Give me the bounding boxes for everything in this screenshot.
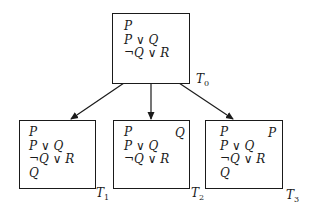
formula: Q <box>29 167 74 181</box>
label-text: T <box>96 186 104 200</box>
formula: ¬Q ∨ R <box>220 153 265 167</box>
formula: P <box>220 126 265 140</box>
label-text: T <box>286 188 294 202</box>
formula: ¬Q ∨ R <box>124 47 169 61</box>
formula: P ∨ Q <box>124 34 169 48</box>
formula: P ∨ Q <box>124 140 169 154</box>
label-subscript: 3 <box>294 195 299 204</box>
formula: P <box>124 126 169 140</box>
edge-t0-t3-arrow-icon <box>179 83 233 119</box>
node-t3-extra-formula: P <box>268 126 276 140</box>
node-t2-formulas: P P ∨ Q ¬Q ∨ R <box>124 126 169 167</box>
node-t3-label: T3 <box>286 188 299 204</box>
formula: P <box>124 20 169 34</box>
formula: ¬Q ∨ R <box>124 153 169 167</box>
formula: P <box>29 126 74 140</box>
node-t1-formulas: P P ∨ Q ¬Q ∨ R Q <box>29 126 74 180</box>
node-t1-label: T1 <box>96 186 109 202</box>
diagram-canvas: P P ∨ Q ¬Q ∨ R T0 P P ∨ Q ¬Q ∨ R Q T1 P … <box>0 0 315 213</box>
node-t3-formulas: P P ∨ Q ¬Q ∨ R Q <box>220 126 265 180</box>
formula: Q <box>220 167 265 181</box>
label-subscript: 0 <box>204 79 209 88</box>
node-t2-extra-formula: Q <box>175 126 185 140</box>
label-subscript: 1 <box>104 193 109 202</box>
label-subscript: 2 <box>199 193 204 202</box>
formula: P ∨ Q <box>220 140 265 154</box>
edge-t0-t1-arrow-icon <box>71 83 124 119</box>
node-t0-label: T0 <box>196 72 209 88</box>
label-text: T <box>191 186 199 200</box>
formula: ¬Q ∨ R <box>29 153 74 167</box>
formula: P ∨ Q <box>29 140 74 154</box>
label-text: T <box>196 72 204 86</box>
node-t2-label: T2 <box>191 186 204 202</box>
node-t0-formulas: P P ∨ Q ¬Q ∨ R <box>124 20 169 61</box>
